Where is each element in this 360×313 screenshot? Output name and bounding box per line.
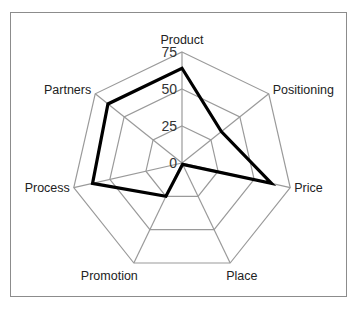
radar-tick-labels: 0255075 — [161, 44, 177, 171]
axis-label-partners: Partners — [44, 83, 91, 97]
axis-label-place: Place — [226, 269, 257, 283]
grid-spoke — [182, 94, 269, 163]
radar-grid — [74, 52, 290, 263]
axis-label-product: Product — [160, 33, 204, 47]
axis-label-promotion: Promotion — [81, 269, 138, 283]
axis-label-process: Process — [25, 181, 70, 195]
axis-label-price: Price — [294, 181, 323, 195]
radar-chart: 0255075 ProductPositioningPricePlaceProm… — [0, 0, 360, 313]
grid-spoke — [74, 163, 182, 188]
tick-label: 50 — [161, 81, 177, 97]
axis-label-positioning: Positioning — [273, 83, 334, 97]
grid-spoke — [182, 163, 230, 263]
tick-label: 25 — [161, 118, 177, 134]
tick-label: 0 — [169, 155, 177, 171]
